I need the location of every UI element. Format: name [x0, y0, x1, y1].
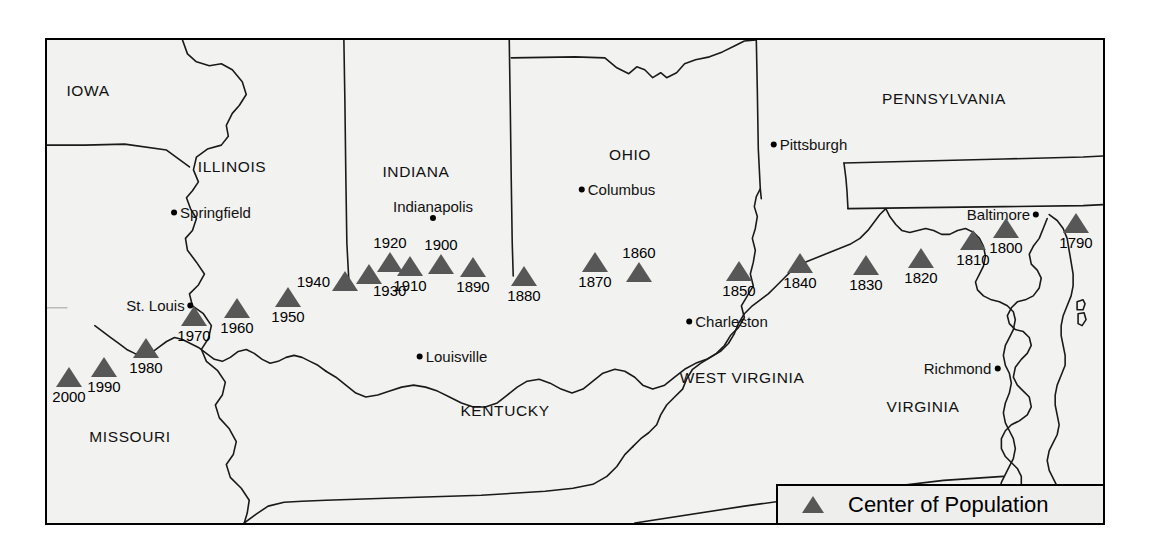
triangle-marker-icon [960, 230, 986, 250]
state-label-virginia: VIRGINIA [887, 398, 960, 416]
city-label-st-louis: St. Louis [126, 298, 184, 313]
pop-center-year-1880: 1880 [507, 288, 540, 303]
city-dot-icon [430, 215, 436, 221]
city-columbus: Columbus [579, 182, 656, 197]
triangle-marker-icon [332, 271, 358, 291]
pop-center-year-1810: 1810 [956, 252, 989, 267]
center-of-population-map: IOWA ILLINOIS INDIANA OHIO PENNSYLVANIA … [0, 0, 1151, 558]
city-richmond: Richmond [924, 361, 1001, 376]
city-dot-icon [686, 318, 692, 324]
ohio-north-boundary [511, 40, 756, 78]
state-label-iowa: IOWA [66, 82, 109, 100]
triangle-marker-icon [460, 257, 486, 277]
city-label-columbus: Columbus [588, 182, 656, 197]
triangle-marker-icon [428, 254, 454, 274]
pop-center-year-1800: 1800 [989, 240, 1022, 255]
coastal-island-north [1077, 300, 1085, 310]
pop-center-year-1850: 1850 [722, 283, 755, 298]
delmarva-peninsula-coastline [1047, 215, 1073, 495]
city-dot-icon [417, 353, 423, 359]
triangle-marker-icon [993, 218, 1019, 238]
city-indianapolis: Indianapolis [393, 199, 473, 221]
triangle-marker-icon [787, 253, 813, 273]
triangle-marker-icon [511, 266, 537, 286]
triangle-marker-icon [356, 264, 382, 284]
state-label-kentucky: KENTUCKY [460, 402, 549, 420]
pop-center-year-1830: 1830 [849, 277, 882, 292]
pop-center-year-1900: 1900 [424, 237, 457, 252]
pop-center-year-1930: 1930 [373, 283, 406, 298]
state-label-indiana: INDIANA [382, 163, 449, 181]
state-label-illinois: ILLINOIS [198, 158, 267, 176]
triangle-marker-icon [1063, 213, 1089, 233]
pop-center-year-1820: 1820 [904, 270, 937, 285]
triangle-marker-icon [853, 255, 879, 275]
map-frame [45, 38, 1105, 525]
pop-center-year-1790: 1790 [1059, 235, 1092, 250]
city-louisville: Louisville [417, 349, 488, 364]
city-label-pittsburgh: Pittsburgh [780, 137, 848, 152]
city-springfield: Springfield [171, 205, 251, 220]
triangle-marker-icon [275, 287, 301, 307]
triangle-marker-icon [626, 262, 652, 282]
state-boundaries-geometry [47, 40, 1103, 523]
city-dot-icon [994, 365, 1000, 371]
city-dot-icon [171, 209, 177, 215]
pop-center-year-1970: 1970 [177, 328, 210, 343]
pop-center-year-1940: 1940 [297, 274, 330, 289]
iowa-missouri-boundary [47, 144, 189, 167]
ohio-pennsylvania-boundary [756, 40, 761, 199]
city-dot-icon [771, 141, 777, 147]
kentucky-south-boundary [244, 447, 633, 523]
city-label-richmond: Richmond [924, 361, 992, 376]
city-dot-icon [579, 186, 585, 192]
coastal-island-south [1078, 313, 1086, 326]
triangle-marker-icon [802, 496, 824, 513]
city-label-springfield: Springfield [180, 205, 251, 220]
legend-label: Center of Population [848, 494, 1049, 516]
triangle-marker-icon [56, 367, 82, 387]
pop-center-year-1920: 1920 [373, 235, 406, 250]
city-dot-icon [1033, 211, 1039, 217]
triangle-marker-icon [224, 298, 250, 318]
pop-center-year-1990: 1990 [87, 379, 120, 394]
illinois-indiana-boundary [344, 40, 349, 281]
triangle-marker-icon [181, 306, 207, 326]
city-label-louisville: Louisville [426, 349, 488, 364]
triangle-marker-icon [133, 338, 159, 358]
city-label-charleston: Charleston [695, 314, 768, 329]
pennsylvania-maryland-notch [844, 163, 848, 209]
triangle-marker-icon [726, 261, 752, 281]
pop-center-year-1870: 1870 [578, 274, 611, 289]
city-label-indianapolis: Indianapolis [393, 199, 473, 214]
pop-center-year-1960: 1960 [220, 320, 253, 335]
state-label-west-virginia: WEST VIRGINIA [680, 369, 805, 387]
city-pittsburgh: Pittsburgh [771, 137, 848, 152]
pop-center-year-1890: 1890 [456, 279, 489, 294]
pop-center-year-2000: 2000 [52, 389, 85, 404]
pennsylvania-northeast-boundary [844, 156, 1103, 163]
state-label-pennsylvania: PENNSYLVANIA [882, 90, 1006, 108]
pop-center-year-1980: 1980 [129, 360, 162, 375]
triangle-marker-icon [908, 248, 934, 268]
mississippi-river-boundary [182, 40, 249, 523]
chesapeake-bay-coastline [1001, 219, 1047, 495]
state-label-missouri: MISSOURI [89, 428, 170, 446]
pop-center-year-1840: 1840 [783, 275, 816, 290]
triangle-marker-icon [582, 252, 608, 272]
indiana-ohio-boundary [509, 40, 513, 276]
triangle-marker-icon [91, 357, 117, 377]
pop-center-year-1860: 1860 [622, 245, 655, 260]
city-charleston: Charleston [686, 314, 768, 329]
state-label-ohio: OHIO [609, 146, 651, 164]
legend: Center of Population [776, 484, 1105, 525]
pop-center-year-1950: 1950 [271, 309, 304, 324]
